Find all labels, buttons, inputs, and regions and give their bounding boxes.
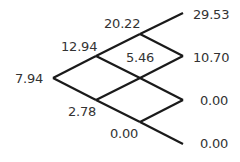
edge-n2uu-n3uuu [140, 13, 183, 34]
edge-n2ud-n3udd [140, 78, 183, 100]
node-label-up-up: 20.22 [104, 17, 140, 30]
node-label-uuu: 29.53 [193, 8, 229, 21]
edge-n2dd-n3udd [140, 100, 183, 122]
node-label-uud: 10.70 [193, 51, 229, 64]
edge-n2dd-n3ddd [140, 122, 183, 144]
node-label-up-down: 5.46 [126, 51, 154, 64]
node-label-root: 7.94 [15, 72, 43, 85]
edge-n1d-n2dd [96, 100, 140, 122]
node-label-ddd: 0.00 [200, 137, 228, 150]
edge-n0-n1d [53, 78, 96, 100]
edge-n1d-n2ud [96, 78, 140, 100]
node-label-down: 2.78 [68, 105, 96, 118]
edge-n0-n1u [53, 56, 96, 78]
node-label-up: 12.94 [61, 40, 97, 53]
node-label-down-down: 0.00 [110, 127, 138, 140]
node-label-udd: 0.00 [200, 94, 228, 107]
